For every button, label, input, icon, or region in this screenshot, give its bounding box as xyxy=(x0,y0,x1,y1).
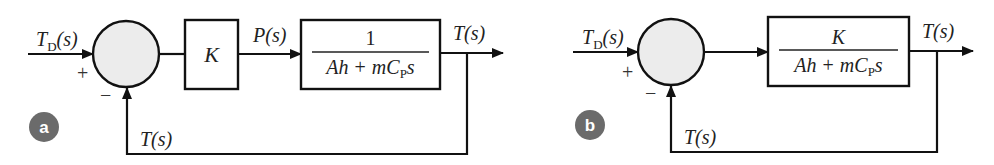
minus-sign-a: − xyxy=(100,84,111,106)
block-diagrams: TD(s) + − K P(s) 1 Ah+mCPs T(s) T(s) a T… xyxy=(0,0,994,165)
gain-block-label-a: K xyxy=(203,42,220,67)
input-label-b: TD(s) xyxy=(582,26,624,52)
plus-sign-a: + xyxy=(77,62,88,84)
panel-a: TD(s) + − K P(s) 1 Ah+mCPs T(s) T(s) a xyxy=(28,20,503,154)
output-label-a: T(s) xyxy=(453,22,486,45)
panel-badge-label-a: a xyxy=(39,118,49,137)
minus-sign-b: − xyxy=(645,82,656,104)
input-label-a: TD(s) xyxy=(36,28,78,54)
output-label-b: T(s) xyxy=(922,20,955,43)
plant-numerator-a: 1 xyxy=(366,27,376,49)
plant-numerator-b: K xyxy=(831,26,847,48)
plus-sign-b: + xyxy=(622,61,633,83)
panel-b: TD(s) + − K Ah+mCPs T(s) T(s) b xyxy=(573,17,973,152)
feedback-label-a: T(s) xyxy=(140,128,173,151)
intermediate-signal-label-a: P(s) xyxy=(252,24,287,47)
feedback-label-b: T(s) xyxy=(684,126,717,149)
summing-junction-a xyxy=(93,21,159,87)
panel-badge-label-b: b xyxy=(585,116,595,135)
summing-junction-b xyxy=(638,19,704,85)
